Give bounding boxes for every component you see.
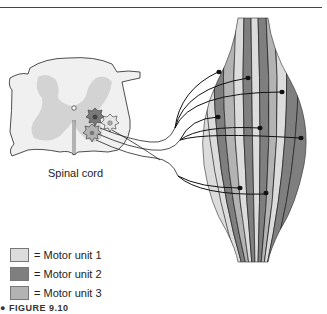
legend-swatch [10, 286, 29, 300]
legend: = Motor unit 1 = Motor unit 2 = Motor un… [10, 246, 102, 303]
spinal-cord-cross-section [9, 58, 140, 156]
central-canal [72, 106, 76, 110]
end-plate [298, 136, 303, 140]
legend-item-motor-unit-3: = Motor unit 3 [10, 284, 102, 302]
legend-swatch [10, 248, 29, 262]
end-plate [237, 186, 242, 190]
end-plate [257, 126, 262, 130]
end-plate [279, 90, 284, 94]
legend-swatch [10, 267, 29, 281]
motor-neuron-1 [83, 124, 101, 142]
end-plate [216, 70, 221, 74]
legend-item-motor-unit-1: = Motor unit 1 [10, 246, 102, 264]
figure-caption: ● FIGURE 9.10 [0, 303, 68, 313]
end-plate [245, 76, 250, 80]
end-plate [263, 191, 268, 195]
legend-label: = Motor unit 1 [34, 249, 102, 261]
spinal-cord-label: Spinal cord [48, 167, 103, 179]
legend-item-motor-unit-2: = Motor unit 2 [10, 265, 102, 283]
legend-label: = Motor unit 3 [34, 287, 102, 299]
end-plate [215, 115, 220, 119]
legend-label: = Motor unit 2 [34, 268, 102, 280]
